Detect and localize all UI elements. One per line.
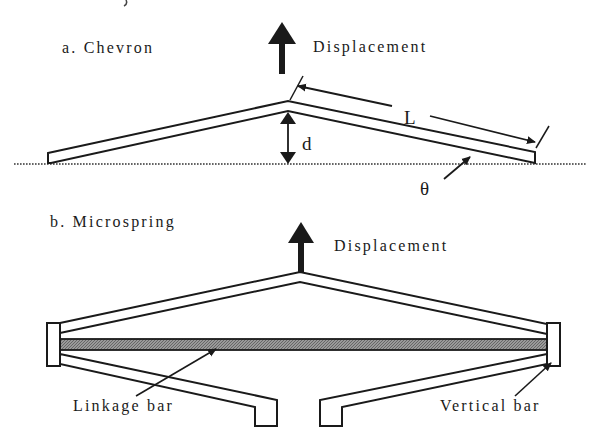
panel-a-displacement-label: Displacement — [313, 38, 427, 56]
lower-right-anchor-arm — [320, 354, 547, 426]
angle-label: θ — [420, 178, 429, 199]
panel-b-displacement-label: Displacement — [334, 237, 448, 255]
left-vertical-bar — [47, 323, 60, 366]
upper-chevron-beam — [60, 272, 547, 334]
panel-a-chevron: a. Chevron Displacement L d θ — [14, 22, 586, 199]
angle-pointer-arrow-icon — [444, 157, 470, 179]
vertical-bar-label: Vertical bar — [440, 397, 541, 414]
right-vertical-bar — [547, 323, 560, 366]
height-dimension-arrow-icon — [280, 112, 296, 164]
panel-b-microspring: b. Microspring Displacement Linkage bar … — [47, 213, 560, 426]
stray-mark — [124, 0, 127, 6]
displacement-arrow-icon — [268, 22, 296, 74]
panel-b-title: b. Microspring — [50, 213, 176, 231]
displacement-arrow-icon — [288, 222, 314, 272]
linkage-bar-label: Linkage bar — [73, 397, 174, 415]
length-label: L — [404, 107, 416, 128]
linkage-bar — [60, 339, 547, 350]
height-label: d — [302, 133, 312, 154]
chevron-microspring-diagram: a. Chevron Displacement L d θ — [0, 0, 591, 440]
lower-left-anchor-arm — [60, 354, 277, 426]
panel-a-title: a. Chevron — [62, 39, 154, 56]
